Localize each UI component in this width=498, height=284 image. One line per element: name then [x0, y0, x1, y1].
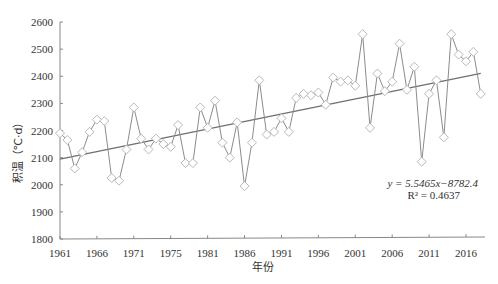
x-tick-label: 1975 — [160, 247, 183, 259]
x-tick-label: 1991 — [270, 247, 292, 259]
y-axis-title: 积温（℃·d） — [12, 117, 25, 184]
y-tick-label: 2400 — [31, 70, 54, 82]
y-tick-label: 2500 — [31, 43, 54, 55]
data-point-marker — [358, 30, 367, 39]
data-point-marker — [343, 76, 352, 85]
data-point-marker — [70, 164, 79, 173]
data-point-marker — [255, 76, 264, 85]
data-point-marker — [425, 89, 434, 98]
y-tick-label: 1800 — [31, 233, 54, 245]
data-point-marker — [129, 103, 138, 112]
y-tick-labels: 180019002000210022002300240025002600 — [31, 16, 54, 245]
data-point-marker — [410, 62, 419, 71]
x-tick-label: 1961 — [49, 247, 71, 259]
data-point-marker — [247, 138, 256, 147]
x-tick-label: 2006 — [381, 247, 404, 259]
x-tick-label: 2011 — [418, 247, 440, 259]
data-point-marker — [218, 138, 227, 147]
data-point-marker — [92, 115, 101, 124]
data-point-marker — [240, 182, 249, 191]
data-point-marker — [203, 123, 212, 132]
data-point-marker — [174, 121, 183, 130]
data-point-marker — [373, 69, 382, 78]
data-point-marker — [351, 81, 360, 90]
data-point-marker — [417, 157, 426, 166]
data-point-marker — [366, 123, 375, 132]
data-point-marker — [211, 96, 220, 105]
x-axis-title: 年份 — [252, 260, 274, 274]
data-point-marker — [196, 103, 205, 112]
data-point-marker — [447, 30, 456, 39]
y-tick-label: 2000 — [31, 179, 54, 191]
y-tick-label: 2600 — [31, 16, 54, 28]
data-point-marker — [284, 127, 293, 136]
data-point-marker — [395, 39, 404, 48]
x-tick-label: 1971 — [123, 247, 145, 259]
data-point-marker — [225, 153, 234, 162]
data-point-marker — [151, 134, 160, 143]
y-tick-label: 1900 — [31, 206, 54, 218]
data-point-marker — [336, 77, 345, 86]
y-tick-label: 2100 — [31, 152, 54, 164]
x-tick-label: 1986 — [234, 247, 257, 259]
data-point-marker — [388, 77, 397, 86]
data-point-marker — [85, 127, 94, 136]
data-point-marker — [469, 47, 478, 56]
x-tick-label: 1996 — [307, 247, 330, 259]
data-point-marker — [402, 85, 411, 94]
regression-equation: y = 5.5465x−8782.4 — [386, 177, 478, 189]
y-tick-label: 2300 — [31, 97, 54, 109]
data-point-marker — [329, 73, 338, 82]
x-tick-label: 2001 — [344, 247, 366, 259]
accumulated-temperature-chart: 180019002000210022002300240025002600 196… — [0, 0, 498, 284]
data-point-marker — [233, 118, 242, 127]
data-series — [56, 30, 486, 191]
data-point-marker — [321, 100, 330, 109]
data-point-marker — [188, 159, 197, 168]
data-point-marker — [439, 133, 448, 142]
r-squared: R² = 0.4637 — [407, 189, 460, 201]
x-tick-labels: 1961196619711975198119861991199620012006… — [49, 247, 478, 259]
data-point-marker — [292, 93, 301, 102]
x-tick-label: 1966 — [86, 247, 109, 259]
data-point-marker — [144, 145, 153, 154]
x-tick-label: 2016 — [455, 247, 478, 259]
y-tick-label: 2200 — [31, 125, 54, 137]
data-point-marker — [476, 89, 485, 98]
trend-line — [60, 73, 481, 159]
data-point-marker — [299, 89, 308, 98]
data-point-marker — [100, 117, 109, 126]
data-point-marker — [380, 87, 389, 96]
x-tick-label: 1981 — [197, 247, 219, 259]
